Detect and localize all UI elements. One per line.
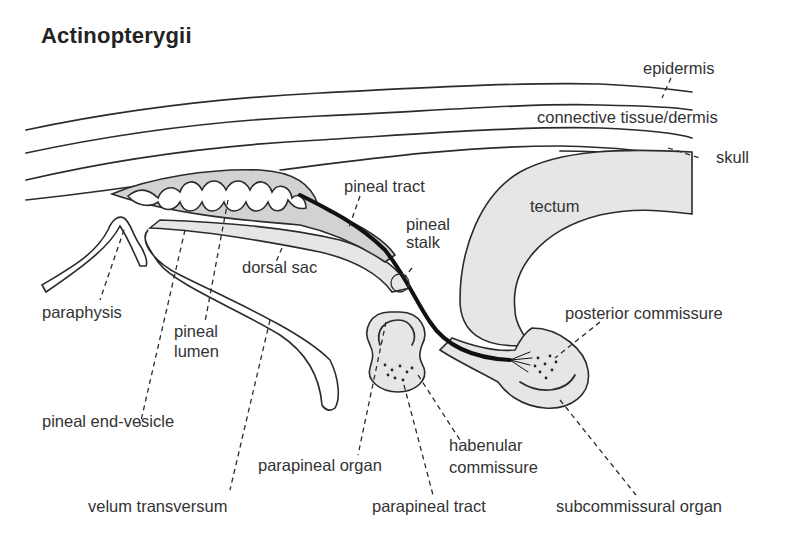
label-dorsal-sac: dorsal sac: [242, 258, 317, 277]
label-pineal-tract: pineal tract: [344, 177, 425, 196]
label-connective-tissue: connective tissue/dermis: [537, 108, 718, 127]
label-parapineal-tract: parapineal tract: [372, 497, 486, 516]
label-pineal-lumen-line1: pineal: [174, 322, 218, 341]
label-epidermis: epidermis: [643, 59, 715, 78]
label-pineal-lumen-line2: lumen: [174, 342, 219, 361]
paraphysis-shape: [42, 217, 147, 292]
label-pineal-stalk-line2: stalk: [406, 233, 440, 252]
parapineal-organ-shape: [367, 312, 425, 392]
label-skull: skull: [716, 148, 749, 167]
label-paraphysis: paraphysis: [42, 303, 122, 322]
pineal-anatomy-diagram: [0, 0, 788, 549]
label-posterior-commissure: posterior commissure: [565, 304, 723, 323]
label-habenular-commissure-line2: commissure: [449, 458, 538, 477]
label-pineal-end-vesicle: pineal end-vesicle: [42, 412, 174, 431]
label-parapineal-organ: parapineal organ: [258, 456, 382, 475]
label-tectum: tectum: [530, 197, 580, 216]
label-velum-transversum: velum transversum: [88, 497, 227, 516]
label-habenular-commissure-line1: habenular: [449, 436, 522, 455]
label-subcommissural-organ: subcommissural organ: [556, 497, 722, 516]
label-pineal-stalk-line1: pineal: [406, 215, 450, 234]
